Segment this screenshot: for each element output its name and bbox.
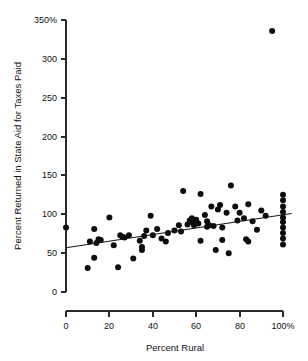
y-tick-label: 0 (52, 287, 57, 297)
data-point (237, 210, 243, 216)
data-point (130, 256, 136, 262)
y-tick-label: 100 (42, 209, 57, 219)
x-axis-title: Percent Rural (146, 342, 204, 353)
data-point (180, 188, 186, 194)
data-point (137, 238, 143, 244)
data-point (280, 209, 286, 215)
data-point (176, 222, 182, 228)
data-point (217, 202, 223, 208)
data-point (226, 250, 232, 256)
y-tick-label: 200 (42, 132, 57, 142)
y-axis-title: Percent Returned in State Aid for Taxes … (12, 62, 23, 250)
data-point (172, 228, 178, 234)
data-point (213, 247, 219, 253)
data-point (141, 233, 147, 239)
data-point (280, 230, 286, 236)
scatter-chart-figure: 0 50 100 150 200 250 300 350% Percent Re… (0, 0, 308, 361)
data-point (178, 228, 184, 234)
data-point (143, 228, 149, 234)
data-point (280, 235, 286, 241)
data-point (280, 192, 286, 198)
data-point (219, 237, 225, 243)
data-point (280, 242, 286, 248)
data-point (154, 226, 160, 232)
data-point (198, 238, 204, 244)
data-point (258, 207, 264, 213)
data-point (198, 191, 204, 197)
data-point (211, 223, 217, 229)
data-point (245, 201, 251, 207)
data-point (219, 225, 225, 231)
x-tick-label: 80 (235, 321, 245, 331)
data-point (87, 238, 93, 244)
data-point (91, 255, 97, 261)
y-tick-label: 150 (42, 170, 57, 180)
data-point (111, 242, 117, 248)
y-tick-label: 350% (34, 15, 57, 25)
y-tick-label: 50 (47, 248, 57, 258)
data-point (85, 265, 91, 271)
data-point (241, 215, 247, 221)
y-tick-label: 250 (42, 93, 57, 103)
chart-canvas: 0 50 100 150 200 250 300 350% Percent Re… (0, 0, 308, 361)
x-tick-label: 60 (191, 321, 201, 331)
data-point (202, 212, 208, 218)
data-point (280, 204, 286, 210)
data-point (263, 213, 269, 219)
data-point (163, 238, 169, 244)
data-point (208, 204, 214, 210)
data-point (91, 226, 97, 232)
x-tick-label: 0 (63, 321, 68, 331)
data-point (280, 225, 286, 231)
data-point (234, 218, 240, 224)
data-point (250, 218, 256, 224)
x-axis-tick-labels: 0 20 40 60 80 100% (63, 321, 294, 331)
data-point (148, 213, 154, 219)
scatter-points-group (63, 28, 286, 271)
y-axis-ticks (61, 20, 66, 292)
data-point (232, 204, 238, 210)
data-point (139, 247, 145, 253)
data-point (98, 237, 104, 243)
data-point (245, 238, 251, 244)
data-point (126, 232, 132, 238)
y-tick-label: 300 (42, 54, 57, 64)
data-point (224, 210, 230, 216)
x-tick-label: 40 (148, 321, 158, 331)
data-point (254, 227, 260, 233)
data-point (269, 28, 275, 34)
data-point (63, 225, 69, 231)
data-point (280, 219, 286, 225)
data-point (228, 183, 234, 189)
data-point (115, 264, 121, 270)
data-point (280, 197, 286, 203)
x-tick-label: 20 (104, 321, 114, 331)
x-tick-label: 100% (271, 321, 294, 331)
data-point (165, 230, 171, 236)
y-axis-tick-labels: 0 50 100 150 200 250 300 350% (34, 15, 57, 297)
data-point (195, 221, 201, 227)
data-point (106, 214, 112, 220)
x-axis-ticks (66, 311, 283, 317)
data-point (150, 232, 156, 238)
